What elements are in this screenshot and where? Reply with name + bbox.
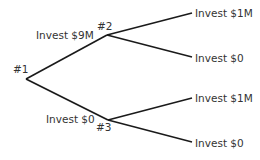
edge-3-b <box>108 120 192 142</box>
node-2-label: #2 <box>97 20 112 32</box>
node-3-label: #3 <box>96 121 111 133</box>
edge-3-a-label: Invest $1M <box>195 92 253 104</box>
tree-lines <box>0 0 260 160</box>
edge-2-b <box>107 35 192 57</box>
node-1-label: #1 <box>13 63 28 75</box>
edge-1-3-label: Invest $0 <box>46 113 95 125</box>
edge-3-b-label: Invest $0 <box>195 137 244 149</box>
edge-2-a-label: Invest $1M <box>195 7 253 19</box>
edge-2-b-label: Invest $0 <box>195 52 244 64</box>
edge-3-a <box>108 98 192 120</box>
edge-2-a <box>107 13 192 35</box>
edge-1-2-label: Invest $9M <box>36 29 94 41</box>
edge-1-2 <box>26 35 107 79</box>
